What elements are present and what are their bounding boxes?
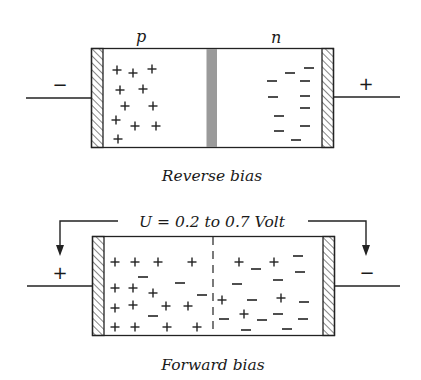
left-contact-plate: [93, 237, 105, 336]
left-terminal-minus: −: [52, 74, 67, 95]
voltage-label: U = 0.2 to 0.7 Volt: [139, 213, 286, 231]
forward-bias-diagram: U = 0.2 to 0.7 Volt + − Forward bias: [27, 213, 400, 374]
n-region-label: n: [271, 28, 281, 47]
right-terminal-minus: −: [359, 262, 374, 283]
forward-bias-caption: Forward bias: [160, 356, 265, 374]
right-contact-plate: [322, 49, 334, 148]
right-terminal-plus: +: [358, 73, 373, 94]
p-region-label: p: [136, 27, 146, 46]
left-contact-plate: [92, 49, 104, 148]
left-terminal-plus: +: [52, 262, 67, 283]
depletion-region: [207, 49, 218, 147]
reverse-bias-diagram: p n − + Reverse bias: [26, 27, 400, 185]
reverse-bias-caption: Reverse bias: [161, 167, 262, 185]
left-arrowhead-icon: [56, 245, 64, 256]
right-arrowhead-icon: [362, 245, 370, 256]
pn-junction-diagram: p n − + Reverse bias U = 0.2 to 0.7 Volt…: [0, 0, 421, 380]
right-contact-plate: [323, 237, 335, 336]
